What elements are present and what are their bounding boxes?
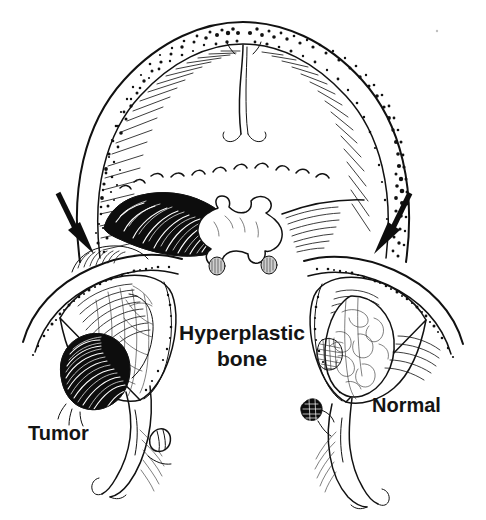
anatomical-figure: Hyperplastic bone Tumor Normal (0, 0, 486, 520)
sphenoid-nodule-right (261, 256, 277, 274)
normal-label: Normal (372, 394, 441, 416)
sphenoid-nodule-left (209, 257, 225, 275)
scan-speck (436, 30, 438, 32)
hyperplastic-bone-label-line2: bone (217, 347, 267, 370)
hyperplastic-bone-label-line1: Hyperplastic (179, 321, 305, 344)
tumor-label: Tumor (28, 422, 89, 444)
illustration-canvas: Hyperplastic bone Tumor Normal (0, 0, 486, 520)
